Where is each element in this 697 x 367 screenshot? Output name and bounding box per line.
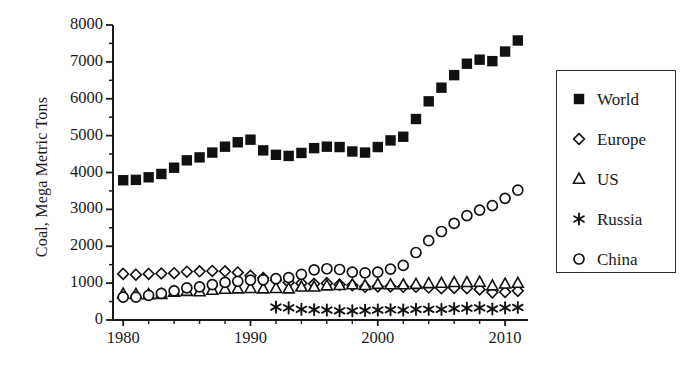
marker-filled-square	[487, 56, 497, 66]
marker-diamond	[207, 266, 218, 277]
marker-circle	[182, 283, 192, 293]
marker-filled-square	[411, 114, 421, 124]
legend-item-label: US	[597, 171, 619, 188]
marker-diamond	[156, 268, 167, 279]
marker-diamond	[574, 134, 585, 145]
marker-circle	[131, 292, 141, 302]
marker-filled-square	[322, 141, 332, 151]
legend-item-world[interactable]: World	[570, 90, 639, 108]
marker-filled-square	[449, 70, 459, 80]
marker-triangle	[487, 280, 498, 290]
y-tick-label: 0	[51, 311, 103, 328]
marker-circle	[487, 201, 497, 211]
y-axis-title: Coal, Mega Metric Tons	[33, 47, 51, 307]
marker-circle	[195, 282, 205, 292]
marker-circle	[347, 267, 357, 277]
marker-filled-square	[462, 59, 472, 69]
marker-filled-square	[574, 94, 584, 104]
marker-circle	[386, 264, 396, 274]
marker-diamond	[131, 269, 142, 280]
marker-filled-square	[347, 146, 357, 156]
marker-circle	[475, 205, 485, 215]
y-tick-label: 5000	[51, 127, 103, 144]
marker-filled-square	[220, 141, 230, 151]
marker-triangle	[449, 277, 460, 287]
marker-triangle	[573, 173, 584, 183]
marker-circle	[373, 267, 383, 277]
marker-circle	[436, 227, 446, 237]
marker-triangle	[423, 278, 434, 288]
series-russia	[271, 301, 523, 316]
y-tick-label: 2000	[51, 237, 103, 254]
marker-diamond	[143, 269, 154, 280]
marker-filled-square	[398, 132, 408, 142]
legend-marker-triangle-icon	[570, 170, 588, 188]
marker-diamond	[220, 266, 231, 277]
y-tick-label: 1000	[51, 274, 103, 291]
marker-filled-square	[207, 147, 217, 157]
y-tick-label: 7000	[51, 53, 103, 70]
marker-circle	[207, 280, 217, 290]
legend-item-label: China	[597, 251, 638, 268]
legend-item-label: Europe	[597, 131, 646, 148]
marker-circle	[360, 268, 370, 278]
legend-item-china[interactable]: China	[570, 250, 638, 268]
marker-circle	[322, 264, 332, 274]
marker-circle	[118, 292, 128, 302]
marker-triangle	[410, 278, 421, 288]
marker-circle	[271, 274, 281, 284]
marker-filled-square	[309, 143, 319, 153]
series-world	[118, 35, 523, 185]
marker-triangle	[398, 279, 409, 289]
marker-circle	[245, 275, 255, 285]
x-tick-label: 1980	[93, 330, 153, 347]
marker-filled-square	[131, 175, 141, 185]
x-tick-label: 2010	[475, 330, 535, 347]
marker-filled-square	[385, 135, 395, 145]
marker-filled-square	[258, 145, 268, 155]
marker-circle	[220, 277, 230, 287]
legend-item-label: Russia	[597, 211, 642, 228]
marker-circle	[574, 254, 584, 264]
marker-circle	[144, 290, 154, 300]
legend-item-europe[interactable]: Europe	[570, 130, 646, 148]
marker-triangle	[372, 278, 383, 288]
marker-filled-square	[169, 163, 179, 173]
marker-diamond	[194, 266, 205, 277]
marker-filled-square	[245, 134, 255, 144]
legend-marker-asterisk-icon	[570, 210, 588, 228]
marker-filled-square	[118, 175, 128, 185]
marker-filled-square	[156, 169, 166, 179]
marker-circle	[449, 218, 459, 228]
marker-diamond	[169, 268, 180, 279]
y-tick-label: 8000	[51, 16, 103, 33]
marker-triangle	[500, 278, 511, 288]
marker-filled-square	[373, 142, 383, 152]
marker-filled-square	[474, 54, 484, 64]
marker-circle	[233, 276, 243, 286]
coal-production-chart: Coal, Mega Metric Tons 01000200030004000…	[0, 0, 697, 367]
legend-item-russia[interactable]: Russia	[570, 210, 642, 228]
marker-circle	[462, 211, 472, 221]
marker-filled-square	[334, 142, 344, 152]
legend-marker-circle-icon	[570, 250, 588, 268]
marker-filled-square	[513, 35, 523, 45]
marker-filled-square	[143, 172, 153, 182]
y-tick-label: 4000	[51, 164, 103, 181]
marker-diamond	[118, 269, 129, 280]
x-tick-label: 1990	[220, 330, 280, 347]
marker-filled-square	[424, 96, 434, 106]
legend-item-us[interactable]: US	[570, 170, 619, 188]
marker-filled-square	[296, 148, 306, 158]
marker-circle	[513, 185, 523, 195]
legend-marker-diamond-icon	[570, 130, 588, 148]
marker-filled-square	[360, 147, 370, 157]
marker-filled-square	[283, 151, 293, 161]
marker-triangle	[512, 277, 523, 287]
marker-circle	[411, 248, 421, 258]
marker-filled-square	[500, 46, 510, 56]
marker-circle	[169, 286, 179, 296]
marker-circle	[500, 193, 510, 203]
marker-triangle	[474, 276, 485, 286]
legend-marker-filled-square-icon	[570, 90, 588, 108]
